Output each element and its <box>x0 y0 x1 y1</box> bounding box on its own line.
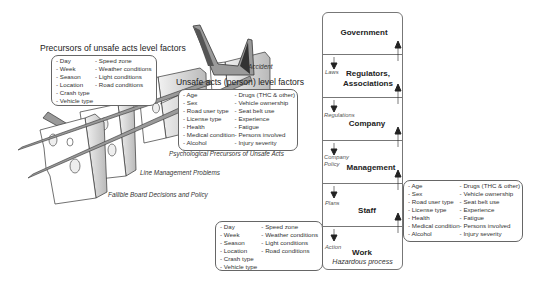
factor-item: Light conditions <box>95 73 152 81</box>
staff-col-1: Age Sex Road user type License type Heal… <box>408 182 460 240</box>
level-company: Company <box>337 119 397 128</box>
factor-item: Medical condition <box>408 222 460 230</box>
factor-item: Crash type <box>220 255 261 263</box>
precursors-col-1: Day Week Season Location Crash type Vehi… <box>56 57 95 104</box>
layer-label-board-decisions: Fallible Board Decisions and Policy <box>108 191 208 198</box>
sociotechnical-hierarchy: Government Regulators, Associations Comp… <box>322 12 403 270</box>
level-government: Government <box>333 28 395 37</box>
unsafe-acts-col-1: Age Sex Road user type License type Heal… <box>183 91 235 149</box>
unsafe-acts-title: Unsafe acts (person) level factors <box>176 77 304 87</box>
precursors-factor-box: Day Week Season Location Crash type Vehi… <box>51 55 157 106</box>
level-staff: Staff <box>337 206 397 215</box>
factor-item: Drugs (THC & other) <box>235 91 296 99</box>
layer-label-psychological-precursors: Psychological Precursors of Unsafe Acts <box>169 150 284 157</box>
factor-item: Vehicle ownership <box>460 190 521 198</box>
up-arrows <box>393 13 403 271</box>
factor-item: Road conditions <box>95 81 152 89</box>
factor-item: Speed zone <box>261 223 318 231</box>
factor-item: Alcohol <box>408 230 460 238</box>
factor-item: License type <box>408 206 460 214</box>
factor-item: Experience <box>460 206 521 214</box>
factor-item: Seat belt use <box>460 198 521 206</box>
factor-item: Injury severity <box>460 230 521 238</box>
factor-item: Health <box>183 123 235 131</box>
factor-item: Week <box>220 231 261 239</box>
arrow-up-icon <box>395 41 401 233</box>
level-management: Management <box>343 163 399 172</box>
factor-item: Alcohol <box>183 139 235 147</box>
factor-item: Season <box>56 73 95 81</box>
factor-item: Injury severity <box>235 139 296 147</box>
factor-item: Road user type <box>183 107 235 115</box>
unsafe-acts-factor-box: Age Sex Road user type License type Heal… <box>178 89 298 151</box>
precursors-col-2: Speed zone Weather conditions Light cond… <box>95 57 152 104</box>
layer-label-line-management: Line Management Problems <box>140 169 220 176</box>
level-work: Work <box>337 248 387 257</box>
factor-item: Location <box>56 81 95 89</box>
factor-item: Vehicle type <box>220 263 261 271</box>
factor-item: Location <box>220 247 261 255</box>
factor-item: Weather conditions <box>261 231 318 239</box>
factor-item: Day <box>56 57 95 65</box>
factor-item: Vehicle ownership <box>235 99 296 107</box>
factor-item: Vehicle type <box>56 97 95 105</box>
factor-item: Fatigue <box>460 214 521 222</box>
factor-item: Road conditions <box>261 247 318 255</box>
staff-factor-box: Age Sex Road user type License type Heal… <box>403 180 523 242</box>
factor-item: Age <box>408 182 460 190</box>
cheese-slice-1 <box>40 114 107 204</box>
factor-item: Persons involved <box>460 222 521 230</box>
level-regulators-associations: Regulators, Associations <box>337 69 399 89</box>
factor-item: Age <box>183 91 235 99</box>
factor-item: Sex <box>183 99 235 107</box>
factor-item: Persons involved <box>235 131 296 139</box>
factor-item: Fatigue <box>235 123 296 131</box>
factor-item: Health <box>408 214 460 222</box>
factor-item: Season <box>220 239 261 247</box>
factor-item: Medical condition <box>183 131 235 139</box>
factor-item: Road user type <box>408 198 460 206</box>
work-factor-box: Day Week Season Location Crash type Vehi… <box>215 221 323 271</box>
arrow-down-icon <box>331 57 337 241</box>
factor-item: Weather conditions <box>95 65 152 73</box>
factor-item: Light conditions <box>261 239 318 247</box>
precursors-title: Precursors of unsafe acts level factors <box>40 43 186 53</box>
factor-item: Crash type <box>56 89 95 97</box>
factor-item: Drugs (THC & other) <box>460 182 521 190</box>
factor-item: Week <box>56 65 95 73</box>
factor-item: Experience <box>235 115 296 123</box>
accident-label: Accident <box>248 63 273 70</box>
down-arrows <box>329 13 339 271</box>
unsafe-acts-col-2: Drugs (THC & other) Vehicle ownership Se… <box>235 91 296 149</box>
work-col-2: Speed zone Weather conditions Light cond… <box>261 223 318 269</box>
factor-item: Sex <box>408 190 460 198</box>
work-col-1: Day Week Season Location Crash type Vehi… <box>220 223 261 269</box>
factor-item: Seat belt use <box>235 107 296 115</box>
factor-item: Day <box>220 223 261 231</box>
staff-col-2: Drugs (THC & other) Vehicle ownership Se… <box>460 182 521 240</box>
factor-item: Speed zone <box>95 57 152 65</box>
factor-item: License type <box>183 115 235 123</box>
